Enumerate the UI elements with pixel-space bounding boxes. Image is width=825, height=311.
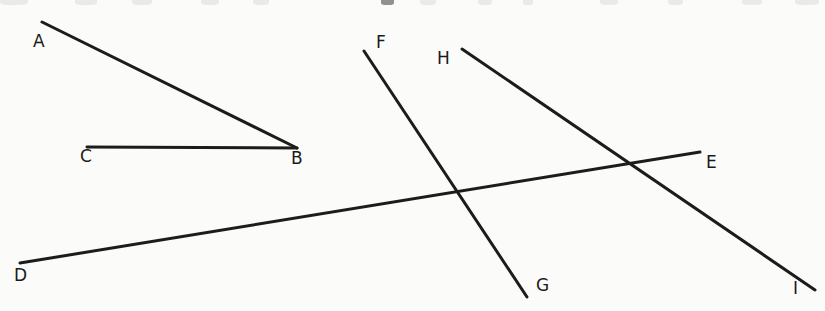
- crop-artifact-12: [795, 0, 819, 5]
- crop-artifact-9: [600, 0, 618, 5]
- line-FG: [364, 51, 527, 297]
- point-label-b: B: [291, 150, 303, 167]
- point-label-c: C: [80, 148, 92, 165]
- crop-artifact-7: [478, 0, 492, 5]
- figure-canvas: [0, 0, 825, 311]
- geometry-figure: ABCDEFGHI: [0, 0, 825, 311]
- crop-artifact-11: [742, 0, 762, 5]
- line-DE: [20, 152, 700, 263]
- crop-artifact-6: [420, 0, 436, 5]
- crop-artifact-3: [201, 0, 219, 5]
- crop-artifact-5: [381, 0, 394, 5]
- ray-BC: [87, 147, 297, 148]
- point-label-g: G: [536, 277, 549, 294]
- crop-artifact-4: [253, 0, 269, 5]
- crop-artifact-8: [523, 0, 533, 5]
- point-label-d: D: [14, 267, 27, 284]
- segment-group: [20, 22, 815, 297]
- point-label-e: E: [706, 154, 717, 171]
- crop-artifact-0: [0, 0, 28, 5]
- line-HI: [462, 49, 815, 290]
- crop-artifact-10: [668, 0, 683, 5]
- point-label-h: H: [437, 50, 450, 67]
- crop-artifact-2: [132, 0, 152, 5]
- ray-BA: [42, 22, 297, 148]
- point-label-i: I: [793, 280, 798, 297]
- point-label-a: A: [33, 33, 45, 50]
- point-label-f: F: [376, 34, 386, 51]
- crop-artifact-1: [75, 0, 97, 5]
